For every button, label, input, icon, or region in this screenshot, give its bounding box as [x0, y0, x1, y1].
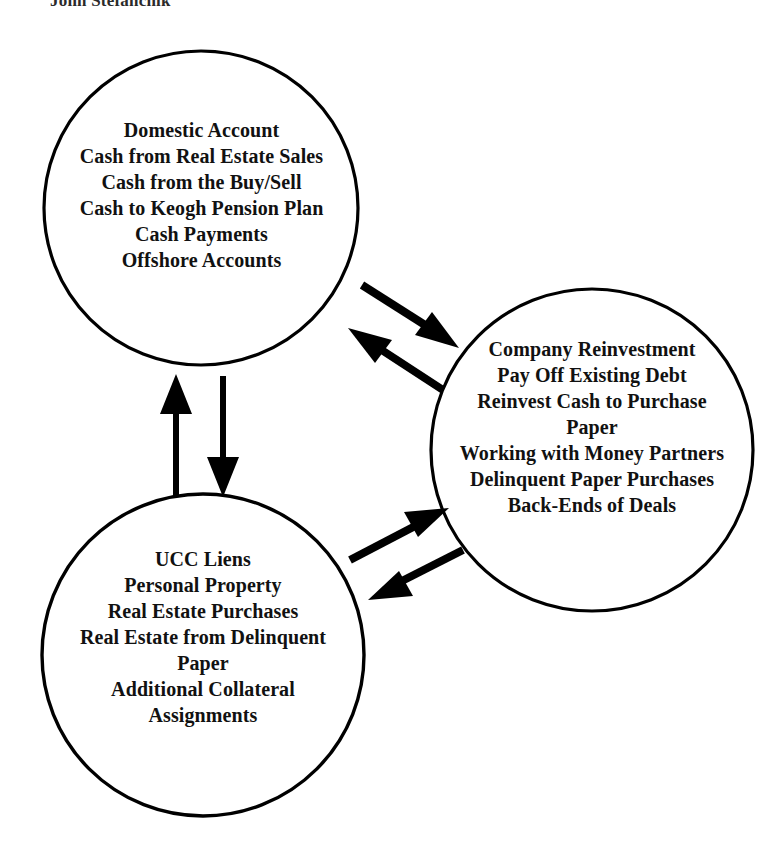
node-label-domestic-account: Domestic Account Cash from Real Estate S… [45, 117, 358, 273]
node-line: Offshore Accounts [45, 247, 358, 273]
node-line: UCC Liens [33, 546, 373, 572]
arrow-domestic-to-ucc [207, 376, 239, 497]
node-line: Delinquent Paper Purchases [424, 466, 760, 492]
node-label-ucc-liens: UCC Liens Personal Property Real Estate … [33, 546, 373, 728]
arrow-ucc-to-domestic [160, 374, 192, 496]
node-line: Cash from the Buy/Sell [45, 169, 358, 195]
node-line: Assignments [33, 702, 373, 728]
node-line: Domestic Account [45, 117, 358, 143]
diagram-page: John Stefanchik [0, 0, 784, 855]
node-line: Back-Ends of Deals [424, 492, 760, 518]
node-line: Personal Property [33, 572, 373, 598]
node-line: Real Estate from Delinquent [33, 624, 373, 650]
node-line: Additional Collateral [33, 676, 373, 702]
node-line: Cash from Real Estate Sales [45, 143, 358, 169]
node-label-company-reinvestment: Company Reinvestment Pay Off Existing De… [424, 336, 760, 518]
node-line: Company Reinvestment [424, 336, 760, 362]
node-line: Reinvest Cash to Purchase [424, 388, 760, 414]
node-line: Cash to Keogh Pension Plan [45, 195, 358, 221]
node-line: Working with Money Partners [424, 440, 760, 466]
node-line: Paper [424, 414, 760, 440]
node-line: Cash Payments [45, 221, 358, 247]
node-line: Pay Off Existing Debt [424, 362, 760, 388]
node-line: Real Estate Purchases [33, 598, 373, 624]
arrow-company-to-ucc [368, 550, 463, 600]
node-line: Paper [33, 650, 373, 676]
